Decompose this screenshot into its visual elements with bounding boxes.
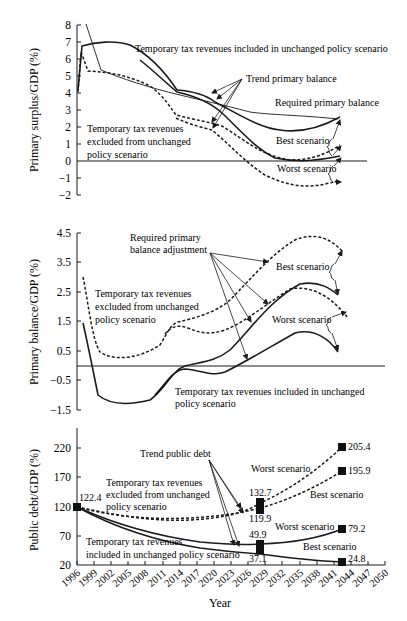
- y-tick-labels: 220 170 120 70 20: [54, 442, 72, 571]
- line-excluded-worst: [176, 118, 340, 186]
- svg-text:−0.5: −0.5: [50, 374, 71, 386]
- annotation-excluded-line1: Temporary tax revenues: [106, 477, 203, 488]
- annotation-worst-scenario: Worst scenario: [272, 314, 331, 325]
- annotation-excluded-line3: policy scenario: [95, 314, 156, 325]
- annotation-excluded-line2: excluded from unchanged: [106, 489, 210, 500]
- svg-text:220: 220: [54, 442, 72, 454]
- marker-end-excluded-best: [338, 467, 346, 475]
- y-tick-labels: 8 7 6 5 4 3 2 1 0 −1 −2: [59, 19, 72, 201]
- annotation-trend-public-debt: Trend public debt: [140, 448, 211, 459]
- svg-text:119.9: 119.9: [249, 513, 271, 524]
- annotation-best-scenario: Best scenario: [276, 135, 330, 146]
- annotation-included-line1: Temporary tax revenues included in uncha…: [175, 386, 365, 397]
- chart-primary-surplus: Primary surplus/GDP (%) 8 7 6 5 4 3 2 1 …: [27, 19, 388, 201]
- svg-text:195.9: 195.9: [348, 465, 371, 476]
- line-included-best: [78, 42, 340, 131]
- annotation-included: Temporary tax revenues included in uncha…: [135, 43, 388, 54]
- annotation-trend-primary-balance: Trend primary balance: [246, 73, 337, 84]
- annotation-excluded-line1: Temporary tax revenues: [95, 288, 192, 299]
- figure: Primary surplus/GDP (%) 8 7 6 5 4 3 2 1 …: [0, 0, 407, 621]
- annotation-worst-top: Worst scenario: [251, 463, 310, 474]
- svg-text:132.7: 132.7: [249, 487, 272, 498]
- svg-text:205.4: 205.4: [348, 441, 371, 452]
- svg-text:70: 70: [60, 530, 72, 542]
- svg-text:7: 7: [65, 36, 71, 48]
- annotation-excluded-line3: policy scenario: [87, 149, 148, 160]
- annotation-excluded-line3: policy scenario: [106, 501, 167, 512]
- chart-primary-balance: Primary balance/GDP (%) 4.5 3.5 2.5 1.5 …: [27, 227, 385, 416]
- annotation-required-primary-balance: Required primary balance: [275, 97, 379, 108]
- svg-text:120: 120: [54, 501, 72, 513]
- svg-text:79.2: 79.2: [348, 523, 366, 534]
- marker-end-excluded-worst: [338, 443, 346, 451]
- marker-end-included-best: [338, 558, 346, 566]
- svg-text:24.8: 24.8: [348, 553, 366, 564]
- y-tick-labels: 4.5 3.5 2.5 1.5 0.5 −0.5 −1.5: [50, 227, 71, 416]
- annotation-best-top: Best scenario: [310, 489, 364, 500]
- svg-text:1.5: 1.5: [57, 315, 72, 327]
- y-axis-label-public-debt: Public debt/GDP (%): [27, 449, 41, 551]
- svg-text:0.5: 0.5: [57, 345, 72, 357]
- annotation-required-adjustment-line2: balance adjustment: [130, 244, 207, 255]
- annotation-included-line2: policy scenario: [175, 398, 236, 409]
- x-axis-label: Year: [209, 596, 231, 610]
- annotation-required-adjustment-line1: Required primary: [130, 232, 201, 243]
- y-axis-label-primary-balance: Primary balance/GDP (%): [27, 259, 41, 385]
- svg-text:6: 6: [65, 53, 71, 65]
- svg-text:3.5: 3.5: [57, 256, 72, 268]
- svg-text:−2: −2: [59, 189, 71, 201]
- svg-text:122.4: 122.4: [79, 492, 102, 503]
- annotation-excluded-line2: excluded from unchanged: [87, 136, 191, 147]
- x-tick-labels: 1996 1999 2002 2005 2008 2011 2014 2017 …: [59, 567, 390, 589]
- svg-text:4.5: 4.5: [57, 227, 72, 239]
- y-ticks: [77, 25, 81, 195]
- annotation-best-scenario: Best scenario: [276, 261, 330, 272]
- chart-public-debt: Public debt/GDP (%) 220 170 120 70 20: [27, 428, 390, 610]
- svg-text:1: 1: [65, 138, 71, 150]
- svg-text:49.9: 49.9: [249, 529, 267, 540]
- annotation-excluded-line1: Temporary tax revenues: [87, 123, 184, 134]
- marker-end-included-worst: [338, 525, 346, 533]
- svg-text:20: 20: [60, 559, 72, 571]
- annotation-best-bottom: Best scenario: [303, 541, 357, 552]
- annotation-excluded-line2: excluded from unchanged: [95, 301, 199, 312]
- svg-text:−1.5: −1.5: [50, 404, 71, 416]
- svg-text:8: 8: [65, 19, 71, 31]
- annotation-included-line2: included in unchanged policy scenario: [86, 549, 240, 560]
- svg-text:2: 2: [65, 121, 71, 133]
- svg-text:170: 170: [54, 471, 72, 483]
- svg-text:5: 5: [65, 70, 71, 82]
- y-axis-label-primary-surplus: Primary surplus/GDP (%): [27, 48, 41, 172]
- svg-text:4: 4: [65, 87, 71, 99]
- y-ticks: [77, 233, 81, 410]
- marker-start: [73, 503, 81, 511]
- svg-text:2.5: 2.5: [57, 286, 72, 298]
- annotation-worst-bottom: Worst scenario: [275, 521, 334, 532]
- annotation-worst-scenario: Worst scenario: [277, 163, 336, 174]
- svg-text:0: 0: [65, 155, 71, 167]
- svg-text:−1: −1: [59, 172, 71, 184]
- svg-text:2050: 2050: [367, 567, 390, 589]
- svg-text:37.1: 37.1: [249, 553, 267, 564]
- annotation-included-line1: Temporary tax revenues: [86, 536, 183, 547]
- svg-text:3: 3: [65, 104, 71, 116]
